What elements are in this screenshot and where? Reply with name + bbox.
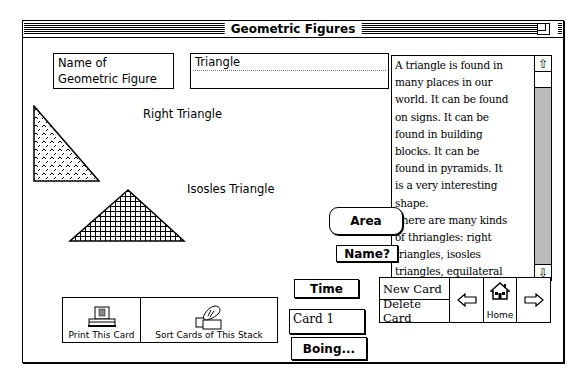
print-card-button[interactable]: Print This Card [62,297,141,343]
isosceles-triangle-shape-icon[interactable] [68,189,188,243]
printer-icon [87,306,117,330]
sort-cards-hand-icon [193,304,225,330]
vertical-scrollbar[interactable]: ⇧ ⇩ [534,56,551,280]
right-arrow-icon [524,293,544,307]
hypercard-window: Geometric Figures Name of Geometric Figu… [22,20,564,363]
scroll-thumb[interactable] [535,72,551,88]
home-label: Home [487,310,514,320]
left-arrow-icon [457,293,477,307]
scroll-up-arrow-icon[interactable]: ⇧ [535,56,551,72]
title-bar[interactable]: Geometric Figures [23,21,563,38]
print-card-label: Print This Card [69,330,135,340]
right-triangle-shape-icon[interactable] [33,105,103,183]
isosceles-triangle-label: Isosles Triangle [187,182,275,196]
description-field[interactable]: A triangle is found in many places in ou… [391,55,552,281]
figure-name-field[interactable]: Triangle [190,53,389,89]
area-button[interactable]: Area [329,207,403,235]
figure-name-value: Triangle [195,55,240,69]
time-button[interactable]: Time [294,279,359,298]
label-line-1: Name of [58,55,169,71]
zoom-box-icon[interactable] [537,23,550,35]
name-button[interactable]: Name? [336,245,398,262]
home-house-icon [490,282,510,300]
description-text: A triangle is found in many places in ou… [392,56,535,280]
name-of-figure-label: Name of Geometric Figure [53,53,174,89]
next-card-button[interactable] [516,277,551,323]
boing-button[interactable]: Boing... [291,337,367,360]
right-triangle-label: Right Triangle [143,107,222,121]
home-button[interactable]: Home [483,277,517,323]
previous-card-button[interactable] [449,277,484,323]
sort-cards-button[interactable]: Sort Cards of This Stack [140,297,278,343]
card-number-field[interactable]: Card 1 [289,309,365,334]
window-title: Geometric Figures [225,21,362,37]
sort-cards-label: Sort Cards of This Stack [155,330,263,340]
label-line-2: Geometric Figure [58,71,169,87]
delete-card-button[interactable]: Delete Card [379,299,450,323]
